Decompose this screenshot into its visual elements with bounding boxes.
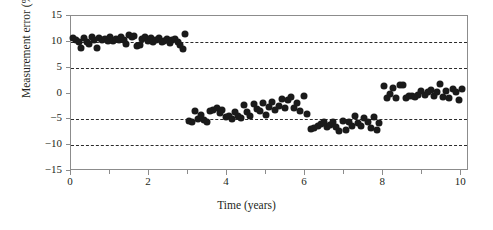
y-tick-label-15: 15 [26, 9, 62, 20]
data-point [300, 92, 307, 99]
y-tick-label--10: −10 [26, 138, 62, 149]
y-tick-5 [66, 67, 70, 68]
plot-area [70, 15, 468, 170]
y-tick--5 [66, 118, 70, 119]
data-point [179, 45, 186, 52]
data-point [263, 112, 270, 119]
data-point [131, 33, 138, 40]
x-axis-title: Time (years) [0, 199, 493, 211]
data-point [294, 100, 301, 107]
data-point [376, 120, 383, 127]
data-point [373, 126, 380, 133]
x-tick-label-4: 4 [211, 176, 241, 187]
y-tick-label--5: −5 [26, 112, 62, 123]
scatter-chart-figure: Measurement error (%) 151050−5−10−150246… [0, 0, 493, 230]
x-tick-label-10: 10 [445, 176, 475, 187]
x-minor-tick-9 [421, 170, 422, 174]
y-tick--10 [66, 144, 70, 145]
data-point [370, 113, 377, 120]
x-minor-tick-5 [265, 170, 266, 174]
x-minor-tick-7 [343, 170, 344, 174]
x-tick-label-2: 2 [133, 176, 163, 187]
y-tick-label-10: 10 [26, 35, 62, 46]
data-point [288, 93, 295, 100]
y-tick-0 [66, 93, 70, 94]
data-point [93, 45, 100, 52]
data-point [458, 85, 465, 92]
x-tick-label-0: 0 [55, 176, 85, 187]
data-point [303, 110, 310, 117]
data-point [393, 95, 400, 102]
data-points-layer [71, 16, 467, 169]
data-point [247, 113, 254, 120]
data-point [399, 82, 406, 89]
x-minor-tick-1 [109, 170, 110, 174]
data-point [204, 118, 211, 125]
data-point [181, 31, 188, 38]
x-tick-label-6: 6 [289, 176, 319, 187]
data-point [437, 81, 444, 88]
y-tick-label-0: 0 [26, 87, 62, 98]
data-point [123, 40, 130, 47]
data-point [380, 82, 387, 89]
data-point [446, 95, 453, 102]
data-point [219, 106, 226, 113]
y-tick-15 [66, 15, 70, 16]
x-minor-tick-3 [187, 170, 188, 174]
data-point [238, 115, 245, 122]
y-tick-label-5: 5 [26, 61, 62, 72]
y-tick-label--15: −15 [26, 164, 62, 175]
data-point [455, 96, 462, 103]
x-tick-label-8: 8 [367, 176, 397, 187]
data-point [281, 104, 288, 111]
y-tick-10 [66, 41, 70, 42]
data-point [78, 45, 85, 52]
data-point [136, 42, 143, 49]
